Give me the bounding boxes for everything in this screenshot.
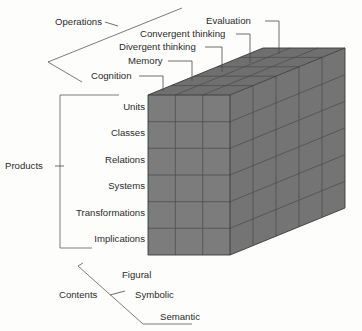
- operations-label-convergent-thinking: Convergent thinking: [140, 28, 225, 39]
- figure-container: Operations Evaluation Convergent thinkin…: [0, 0, 362, 331]
- operations-label-cognition: Cognition: [91, 70, 132, 81]
- operations-label-divergent-thinking: Divergent thinking: [119, 41, 196, 52]
- operations-axis-label: Operations: [55, 16, 102, 27]
- contents-label-semantic: Semantic: [160, 311, 200, 322]
- contents-axis: Contents Figural Symbolic Semantic: [59, 263, 200, 324]
- contents-label-figural: Figural: [122, 269, 151, 280]
- cube-block: [148, 48, 345, 255]
- products-label-classes: Classes: [111, 127, 145, 138]
- operations-label-evaluation: Evaluation: [206, 15, 251, 26]
- products-axis-label: Products: [5, 160, 43, 171]
- products-bracket: [60, 95, 119, 248]
- contents-tick: [110, 291, 125, 295]
- operations-leader-cognition: [139, 76, 163, 91]
- contents-label-symbolic: Symbolic: [135, 289, 174, 300]
- operations-tick: [105, 22, 118, 26]
- operations-label-memory: Memory: [128, 55, 163, 66]
- products-axis: Products Units Classes Relations Systems…: [5, 95, 145, 248]
- products-label-relations: Relations: [105, 154, 145, 165]
- operations-leader-memory: [168, 61, 192, 81]
- structure-of-intellect-diagram: Operations Evaluation Convergent thinkin…: [0, 0, 362, 331]
- products-label-units: Units: [123, 101, 145, 112]
- contents-axis-label: Contents: [59, 289, 98, 300]
- products-label-transformations: Transformations: [76, 207, 145, 218]
- products-label-systems: Systems: [108, 180, 145, 191]
- products-label-implications: Implications: [94, 233, 145, 244]
